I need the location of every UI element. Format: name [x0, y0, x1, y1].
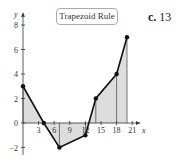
svg-text:6: 6 — [52, 126, 56, 135]
svg-text:21: 21 — [128, 126, 136, 135]
svg-text:0: 0 — [14, 119, 18, 128]
svg-text:4: 4 — [14, 70, 18, 79]
svg-text:y: y — [13, 10, 18, 19]
answer-label: c.13 — [148, 10, 171, 25]
svg-text:8: 8 — [14, 21, 18, 30]
answer-value: 13 — [159, 10, 171, 24]
svg-text:2: 2 — [14, 95, 18, 104]
svg-text:x: x — [141, 126, 146, 135]
svg-text:15: 15 — [97, 126, 105, 135]
svg-text:3: 3 — [37, 126, 41, 135]
svg-text:6: 6 — [14, 46, 18, 55]
svg-text:9: 9 — [68, 126, 72, 135]
svg-text:18: 18 — [113, 126, 121, 135]
answer-letter: c. — [148, 10, 156, 24]
chart-title-box: Trapezoid Rule — [56, 8, 118, 25]
svg-text:−2: −2 — [9, 144, 18, 153]
